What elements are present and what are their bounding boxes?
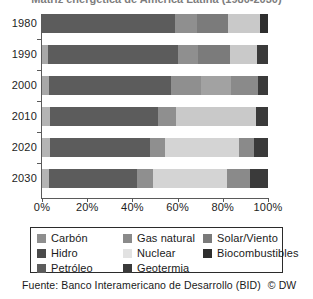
x-axis-label: 80% bbox=[211, 201, 234, 213]
legend-swatch-icon bbox=[37, 264, 46, 273]
source-footer: Fuente: Banco Interamericano de Desarrol… bbox=[22, 279, 313, 291]
legend-item[interactable]: Biocombustibles bbox=[203, 246, 299, 260]
y-axis-label: 1990 bbox=[0, 48, 37, 60]
legend-label: Biocombustibles bbox=[217, 247, 299, 259]
bar-segment bbox=[227, 169, 250, 188]
bar-segment bbox=[231, 76, 258, 95]
bar-row bbox=[42, 169, 268, 188]
bar-segment bbox=[175, 14, 196, 33]
legend-swatch-icon bbox=[37, 249, 46, 258]
bar-segment bbox=[153, 169, 228, 188]
legend-item[interactable]: Nuclear bbox=[123, 246, 195, 260]
bar-segment bbox=[50, 107, 158, 126]
bar-row bbox=[42, 138, 268, 157]
bar-segment bbox=[50, 138, 151, 157]
y-axis-label: 2020 bbox=[0, 141, 37, 153]
bar-segment bbox=[165, 138, 238, 157]
legend-label: Carbón bbox=[51, 232, 88, 244]
bar-segment bbox=[48, 45, 178, 64]
bar-segment bbox=[256, 107, 268, 126]
bar-segment bbox=[42, 169, 49, 188]
page-title: Matriz energética de América Latina (198… bbox=[0, 0, 313, 5]
bar-segment bbox=[171, 76, 202, 95]
legend-swatch-icon bbox=[37, 234, 46, 243]
x-axis-label: 40% bbox=[121, 201, 144, 213]
legend-item[interactable]: Geotermia bbox=[123, 261, 195, 275]
legend-label: Solar/Viento bbox=[217, 232, 278, 244]
bar-segment bbox=[42, 107, 50, 126]
bar-segment bbox=[201, 76, 230, 95]
y-axis-label: 2010 bbox=[0, 110, 37, 122]
legend-item[interactable]: Solar/Viento bbox=[203, 231, 299, 245]
bar-segment bbox=[150, 138, 165, 157]
x-axis-label: 60% bbox=[166, 201, 189, 213]
bar-segment bbox=[49, 76, 171, 95]
legend-item[interactable]: Hidro bbox=[37, 246, 93, 260]
bar-segment bbox=[250, 169, 268, 188]
legend-column-3: Solar/VientoBiocombustibles bbox=[203, 231, 299, 261]
chart-title-strip: Matriz energética de América Latina (198… bbox=[0, 0, 313, 12]
y-axis-label: 1980 bbox=[0, 17, 37, 29]
bar-segment bbox=[260, 14, 268, 33]
bar-segment bbox=[228, 14, 260, 33]
bar-segment bbox=[49, 169, 137, 188]
x-axis-line bbox=[41, 198, 269, 199]
bar-segment bbox=[257, 45, 268, 64]
bar-segment bbox=[178, 45, 198, 64]
bar-segment bbox=[197, 14, 229, 33]
legend-item[interactable]: Petróleo bbox=[37, 261, 93, 275]
x-axis-label: 0% bbox=[34, 201, 50, 213]
bar-segment bbox=[198, 45, 230, 64]
y-axis-label: 2000 bbox=[0, 79, 37, 91]
legend-swatch-icon bbox=[123, 234, 132, 243]
chart-plot-area: 198019902000201020202030 0%20%40%60%80%1… bbox=[0, 12, 313, 225]
legend-swatch-icon bbox=[203, 249, 212, 258]
x-axis-label: 100% bbox=[254, 201, 283, 213]
legend-swatch-icon bbox=[123, 249, 132, 258]
bar-segment bbox=[42, 76, 49, 95]
bar-segment bbox=[258, 76, 268, 95]
bar-segment bbox=[230, 45, 257, 64]
legend-label: Petróleo bbox=[51, 262, 93, 274]
source-text: Fuente: Banco Interamericano de Desarrol… bbox=[22, 279, 261, 291]
bar-segment bbox=[137, 169, 153, 188]
bar-row bbox=[42, 14, 268, 33]
legend-item[interactable]: Carbón bbox=[37, 231, 93, 245]
bar-segment bbox=[239, 138, 255, 157]
legend-label: Geotermia bbox=[137, 262, 189, 274]
bar-row bbox=[42, 45, 268, 64]
stacked-bar-rows bbox=[42, 12, 268, 198]
legend-label: Gas natural bbox=[137, 232, 195, 244]
legend-column-2: Gas naturalNuclearGeotermia bbox=[123, 231, 195, 276]
bar-segment bbox=[42, 138, 50, 157]
legend-swatch-icon bbox=[203, 234, 212, 243]
bar-segment bbox=[158, 107, 176, 126]
bar-segment bbox=[176, 107, 255, 126]
legend-label: Hidro bbox=[51, 247, 78, 259]
x-axis-label: 20% bbox=[76, 201, 99, 213]
copyright-text: © DW bbox=[268, 279, 297, 291]
legend-item[interactable]: Gas natural bbox=[123, 231, 195, 245]
bar-segment bbox=[42, 14, 175, 33]
bar-row bbox=[42, 107, 268, 126]
legend-column-1: CarbónHidroPetróleo bbox=[37, 231, 93, 276]
bar-row bbox=[42, 76, 268, 95]
bar-segment bbox=[254, 138, 268, 157]
y-axis-label: 2030 bbox=[0, 172, 37, 184]
chart-legend: CarbónHidroPetróleo Gas naturalNuclearGe… bbox=[30, 227, 283, 273]
legend-label: Nuclear bbox=[137, 247, 176, 259]
legend-swatch-icon bbox=[123, 264, 132, 273]
